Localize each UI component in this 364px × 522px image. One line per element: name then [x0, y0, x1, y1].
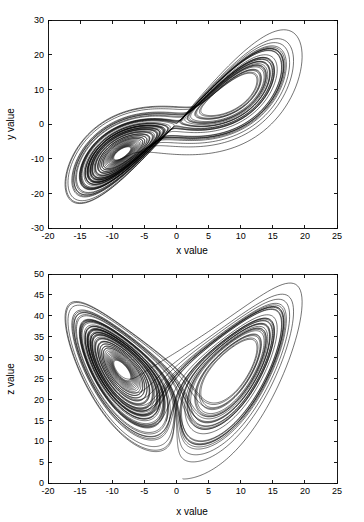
ytick-label: 5 [39, 457, 44, 467]
xtick-label: 0 [174, 231, 179, 241]
xtick-label: -5 [140, 486, 148, 496]
xtick-label: 15 [268, 486, 278, 496]
ytick-label: -30 [31, 223, 44, 233]
xtick-label: 10 [236, 486, 246, 496]
xtick-label: 5 [206, 486, 211, 496]
xtick-label: -10 [106, 486, 119, 496]
ytick-label: 45 [34, 290, 44, 300]
xtick-label: 25 [332, 231, 342, 241]
ytick-label: 35 [34, 332, 44, 342]
ytick-label: -10 [31, 154, 44, 164]
xz-xaxis-label: x value [176, 506, 208, 517]
xy-axes-frame [48, 20, 337, 228]
xtick-label: -10 [106, 231, 119, 241]
xy-projection-plot: -20-15-10-50510152025-30-20-100102030 x … [0, 0, 364, 261]
xtick-label: 20 [300, 486, 310, 496]
ytick-label: 15 [34, 416, 44, 426]
ytick-label: 20 [34, 50, 44, 60]
xz-trajectory-path [65, 283, 302, 479]
xy-projection-panel: -20-15-10-50510152025-30-20-100102030 x … [0, 0, 364, 261]
xz-trajectory-group [65, 283, 302, 479]
ytick-label: 40 [34, 311, 44, 321]
lorenz-attractor-figure: -20-15-10-50510152025-30-20-100102030 x … [0, 0, 364, 522]
xtick-label: 10 [236, 231, 246, 241]
ytick-label: 10 [34, 436, 44, 446]
xtick-label: -15 [74, 231, 87, 241]
ytick-label: 50 [34, 269, 44, 279]
xtick-label: -5 [140, 231, 148, 241]
xtick-label: 20 [300, 231, 310, 241]
xz-projection-panel: -20-15-10-505101520250510152025303540455… [0, 255, 364, 522]
xtick-label: -15 [74, 486, 87, 496]
ytick-label: 25 [34, 374, 44, 384]
xtick-label: 25 [332, 486, 342, 496]
xz-yaxis-label: z value [5, 363, 16, 395]
xtick-label: 15 [268, 231, 278, 241]
xtick-label: 5 [206, 231, 211, 241]
ytick-label: 30 [34, 353, 44, 363]
ytick-label: 20 [34, 395, 44, 405]
xy-trajectory-group [65, 30, 302, 204]
ytick-label: 10 [34, 85, 44, 95]
xy-yaxis-label: y value [5, 108, 16, 140]
ytick-label: 0 [39, 119, 44, 129]
xy-trajectory-path [65, 30, 302, 204]
xz-projection-plot: -20-15-10-505101520250510152025303540455… [0, 255, 364, 522]
xtick-label: 0 [174, 486, 179, 496]
ytick-label: -20 [31, 189, 44, 199]
ytick-label: 30 [34, 15, 44, 25]
ytick-label: 0 [39, 478, 44, 488]
